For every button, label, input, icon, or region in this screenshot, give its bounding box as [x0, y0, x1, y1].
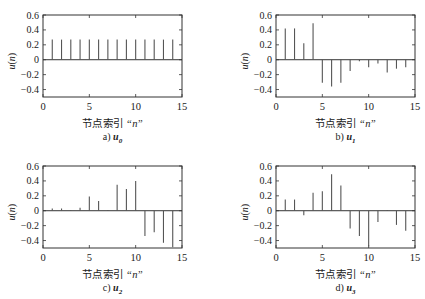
y-tick-label: 0.6 — [27, 10, 40, 21]
plot-frame — [43, 166, 182, 248]
x-tick-label: 10 — [130, 252, 141, 263]
y-axis-label: u(n) — [239, 40, 250, 70]
subplot-d: 0.60.40.20−0.2−0.4051015u(n)节点索引 “n”d) u… — [233, 151, 425, 299]
x-tick-label: 0 — [40, 252, 45, 263]
x-tick-label: 15 — [177, 101, 188, 112]
x-axis-label: 节点索引 “n” — [43, 115, 183, 130]
subplot-caption: b) u1 — [276, 131, 416, 145]
y-axis-label: u(n) — [6, 40, 17, 70]
x-tick-label: 15 — [410, 252, 421, 263]
plot-frame — [276, 166, 415, 248]
x-tick-label: 5 — [320, 101, 325, 112]
y-tick-label: 0.4 — [260, 24, 273, 35]
subplot-caption: a) u0 — [43, 131, 183, 145]
y-tick-label: 0.2 — [260, 190, 273, 201]
x-tick-label: 5 — [320, 252, 325, 263]
y-tick-label: 0.4 — [260, 175, 273, 186]
y-tick-label: 0.4 — [27, 175, 40, 186]
subplot-c: 0.60.40.20−0.2−0.4051015u(n)节点索引 “n”c) u… — [0, 151, 209, 299]
y-tick-label: −0.4 — [254, 235, 272, 246]
y-tick-label: −0.4 — [254, 84, 272, 95]
x-tick-label: 0 — [273, 101, 278, 112]
y-tick-label: 0.6 — [260, 161, 273, 172]
subplot-b: 0.60.40.20−0.2−0.4051015u(n)节点索引 “n”b) u… — [233, 0, 425, 150]
plot-frame — [276, 15, 415, 97]
y-tick-label: 0 — [34, 54, 39, 65]
y-tick-label: −0.2 — [254, 69, 272, 80]
y-tick-label: −0.2 — [21, 69, 39, 80]
y-tick-label: 0 — [267, 54, 272, 65]
x-tick-label: 0 — [40, 101, 45, 112]
x-tick-label: 15 — [410, 101, 421, 112]
y-tick-label: −0.4 — [21, 235, 39, 246]
y-tick-label: 0.2 — [27, 190, 40, 201]
x-tick-label: 5 — [87, 252, 92, 263]
y-tick-label: 0 — [267, 205, 272, 216]
plot-frame — [43, 15, 182, 97]
x-axis-label: 节点索引 “n” — [276, 266, 416, 281]
y-tick-label: −0.2 — [21, 220, 39, 231]
y-tick-label: 0.6 — [27, 161, 40, 172]
x-axis-label: 节点索引 “n” — [43, 266, 183, 281]
subplot-caption: d) u3 — [276, 282, 416, 296]
x-tick-label: 10 — [363, 252, 374, 263]
y-tick-label: 0.2 — [27, 39, 40, 50]
y-axis-label: u(n) — [239, 191, 250, 221]
y-axis-label: u(n) — [6, 191, 17, 221]
subplot-a: 0.60.40.20−0.2−0.4051015u(n)节点索引 “n”a) u… — [0, 0, 209, 150]
y-tick-label: 0.6 — [260, 10, 273, 21]
x-tick-label: 15 — [177, 252, 188, 263]
subplot-caption: c) u2 — [43, 282, 183, 296]
x-tick-label: 10 — [130, 101, 141, 112]
y-tick-label: 0.4 — [27, 24, 40, 35]
x-tick-label: 0 — [273, 252, 278, 263]
x-tick-label: 5 — [87, 101, 92, 112]
x-axis-label: 节点索引 “n” — [276, 115, 416, 130]
x-tick-label: 10 — [363, 101, 374, 112]
y-tick-label: 0 — [34, 205, 39, 216]
y-tick-label: 0.2 — [260, 39, 273, 50]
y-tick-label: −0.2 — [254, 220, 272, 231]
y-tick-label: −0.4 — [21, 84, 39, 95]
